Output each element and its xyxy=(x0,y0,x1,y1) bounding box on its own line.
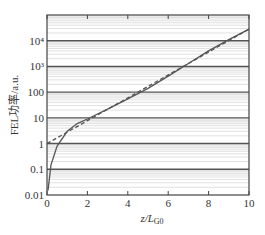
y-axis-label: FEL功率/a.u. xyxy=(7,75,20,136)
x-tick-label: 6 xyxy=(165,197,171,209)
x-tick-label: 4 xyxy=(125,197,131,209)
y-tick-label: 1 xyxy=(39,138,45,150)
grid-lines xyxy=(47,16,249,187)
y-tick-label: 10³ xyxy=(30,60,45,72)
y-tick-label: 0.01 xyxy=(25,189,44,201)
x-axis-label: z/LG0 xyxy=(139,212,163,226)
y-tick-label: 10 xyxy=(33,112,45,124)
x-tick-label: 10 xyxy=(244,197,256,209)
fel-power-chart: 0246810 0.010.111010010³10⁴ z/LG0 FEL功率/… xyxy=(0,0,265,235)
x-tick-label: 2 xyxy=(85,197,91,209)
y-tick-label: 10⁴ xyxy=(29,35,44,47)
x-tick-label: 8 xyxy=(206,197,212,209)
y-axis-ticks: 0.010.111010010³10⁴ xyxy=(25,35,45,201)
y-tick-label: 100 xyxy=(28,86,45,98)
x-tick-label: 0 xyxy=(44,197,50,209)
y-tick-label: 0.1 xyxy=(30,163,44,175)
